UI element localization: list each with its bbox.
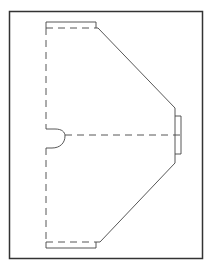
top-tab bbox=[46, 22, 98, 28]
top-diagonal-edge bbox=[98, 28, 175, 116]
left-notch bbox=[46, 129, 65, 148]
dieline-diagram bbox=[0, 0, 212, 264]
fold-lines bbox=[46, 28, 181, 242]
bottom-tab bbox=[46, 242, 96, 248]
bottom-diagonal-edge bbox=[96, 154, 175, 242]
